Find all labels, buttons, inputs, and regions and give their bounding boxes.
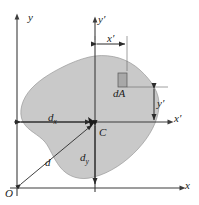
dimension-label-x-prime-mark: ′ xyxy=(112,32,114,44)
centroid-label-C: C xyxy=(99,127,106,138)
plane-area-shape xyxy=(21,56,159,179)
origin-label-O: O xyxy=(5,188,13,199)
axis-label-y-prime-mark: ′ xyxy=(103,13,105,25)
centroid-point xyxy=(93,120,96,123)
axis-label-y: y xyxy=(28,12,33,23)
dimension-label-dy-sub: y xyxy=(86,157,89,166)
figure-canvas xyxy=(0,0,199,205)
centroid-parallel-axis-figure: y x y′ x′ O C dA x′ y′ dx dy d xyxy=(0,0,199,205)
dimension-label-dx-sub: x xyxy=(54,117,57,126)
axis-label-x: x xyxy=(185,180,190,191)
dimension-label-dy: dy xyxy=(80,152,89,166)
x-prime-axis-arrowhead xyxy=(168,120,174,125)
area-element-dA xyxy=(118,73,127,87)
y-axis-arrowhead xyxy=(15,14,20,20)
y-prime-axis-arrowhead xyxy=(93,17,98,23)
area-element-label-dA: dA xyxy=(113,88,125,99)
dimension-label-y-prime: y′ xyxy=(157,98,164,109)
dimension-label-d: d xyxy=(45,157,51,168)
dimension-label-y-prime-mark: ′ xyxy=(162,97,164,109)
dimension-label-x-prime: x′ xyxy=(107,33,114,44)
dimension-label-dx: dx xyxy=(48,112,57,126)
axis-label-y-prime: y′ xyxy=(98,14,105,25)
axis-label-x-prime-mark: ′ xyxy=(179,112,181,124)
axis-label-x-prime: x′ xyxy=(174,113,181,124)
